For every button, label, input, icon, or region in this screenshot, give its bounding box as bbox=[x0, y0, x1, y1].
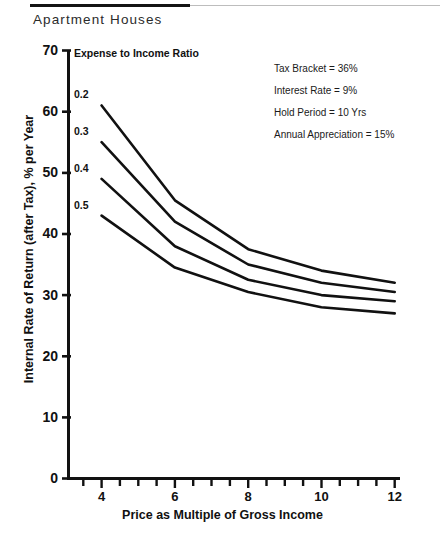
annotation-interest-rate: Interest Rate = 9% bbox=[274, 85, 357, 96]
chart-svg bbox=[0, 0, 445, 540]
x-tick-label-8: 8 bbox=[233, 489, 263, 504]
curve-0.4 bbox=[102, 179, 395, 301]
annotation-hold-period: Hold Period = 10 Yrs bbox=[274, 107, 366, 118]
curve-label-0.5: 0.5 bbox=[74, 199, 89, 211]
curve-0.3 bbox=[102, 142, 395, 292]
x-tick-label-4: 4 bbox=[87, 489, 117, 504]
x-tick-label-10: 10 bbox=[307, 489, 337, 504]
curve-label-0.3: 0.3 bbox=[74, 125, 89, 137]
x-axis-title: Price as Multiple of Gross Income bbox=[0, 508, 445, 522]
annotation-annual-appreciation: Annual Appreciation = 15% bbox=[274, 129, 394, 140]
x-tick-label-6: 6 bbox=[160, 489, 190, 504]
curve-label-0.2: 0.2 bbox=[74, 88, 89, 100]
chart-page: Apartment Houses bbox=[0, 0, 445, 540]
y-tick-label-70: 70 bbox=[24, 42, 58, 58]
curve-label-0.4: 0.4 bbox=[74, 162, 89, 174]
y-axis-title: Internal Rate of Return (after Tax), % p… bbox=[22, 84, 36, 414]
chart-canvas bbox=[0, 0, 445, 540]
x-tick-label-12: 12 bbox=[380, 489, 410, 504]
y-tick-label-0: 0 bbox=[24, 470, 58, 486]
annotation-tax-bracket: Tax Bracket = 36% bbox=[274, 63, 358, 74]
legend-title: Expense to Income Ratio bbox=[74, 47, 199, 59]
